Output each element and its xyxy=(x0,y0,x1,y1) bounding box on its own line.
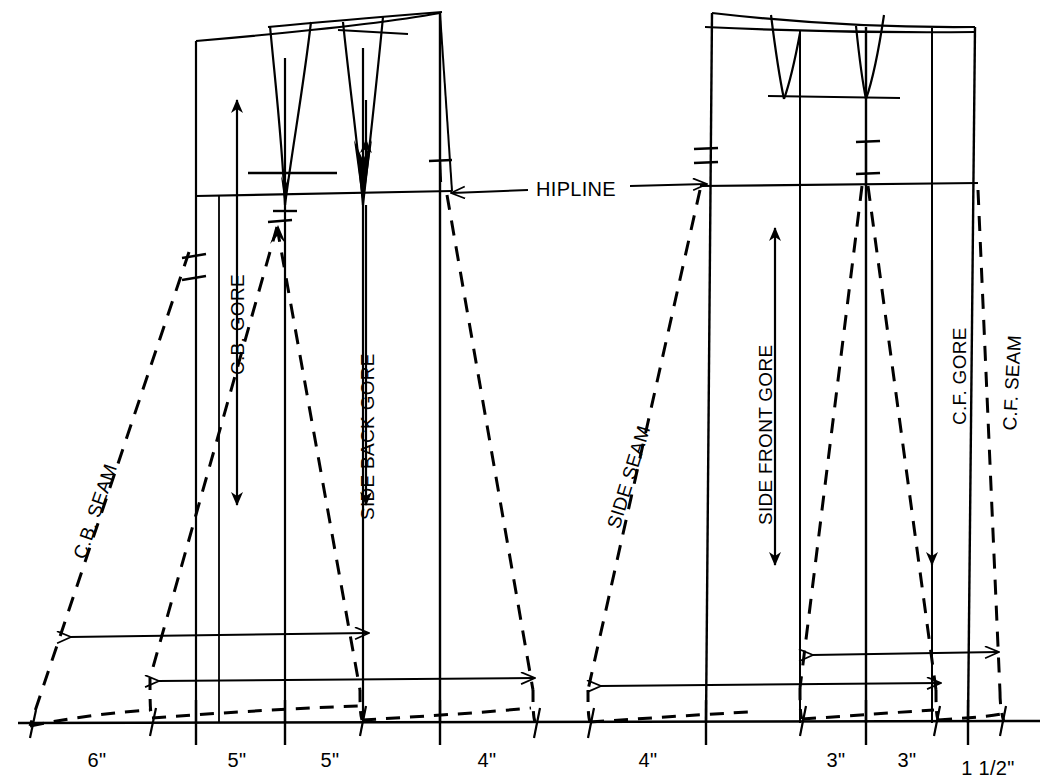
back-outer-edge xyxy=(440,13,452,191)
back-hipline xyxy=(196,191,452,196)
hem-measure-3: 4" xyxy=(478,750,497,770)
back-hem-curve-6 xyxy=(533,690,535,722)
front-dart-1-right xyxy=(784,33,800,99)
back-hem-curve-5 xyxy=(362,708,531,720)
back-waist-line xyxy=(196,13,440,41)
hipline-leader-left xyxy=(452,190,528,193)
front-hem-curve-4 xyxy=(802,710,934,719)
back-hem-curve-3 xyxy=(152,706,360,718)
front-dart-1-left xyxy=(771,15,784,99)
cf-seam-dashed xyxy=(978,190,1000,692)
front-hipline xyxy=(700,183,978,186)
hem-baseline xyxy=(18,721,1040,723)
front-notch-side-a xyxy=(694,148,718,149)
hem-measure-4: 4" xyxy=(639,750,658,770)
cb-gore-right-dashed xyxy=(277,227,360,690)
back-notch-cb-b xyxy=(182,276,206,280)
hem-measure-0: 6" xyxy=(88,750,107,770)
front-notch-center-b xyxy=(856,173,880,174)
front-measure-upper xyxy=(812,652,998,655)
hem-measure-1: 5" xyxy=(228,750,247,770)
cb-gore-apex-arrow xyxy=(270,225,286,244)
front-hem-curve-6 xyxy=(938,714,1002,720)
hem-measure-7: 1 1/2" xyxy=(961,758,1014,778)
cb-gore-left-dashed xyxy=(150,227,277,678)
front-waist-line xyxy=(712,13,975,27)
front-notch-side-b xyxy=(694,162,718,163)
hem-measure-5: 3" xyxy=(827,750,846,770)
back-hem-curve-4 xyxy=(360,690,362,720)
cf-gore-label: C.F. GORE xyxy=(950,327,969,425)
side-back-gore-label: SIDE BACK GORE xyxy=(358,353,377,520)
front-dart-2-left xyxy=(856,26,866,99)
back-notch-side-b xyxy=(440,160,441,182)
back-dart-1-right xyxy=(285,22,311,205)
side-front-gore-label: SIDE FRONT GORE xyxy=(756,345,775,525)
side-front-gore-left-dashed xyxy=(800,186,862,688)
front-hem-curve-1 xyxy=(588,690,590,722)
back-hem-curve-2 xyxy=(150,678,152,718)
cb-gore-apex-tick xyxy=(268,220,292,222)
side-back-gore-right-dashed xyxy=(447,195,533,690)
back-measure-lower xyxy=(158,678,534,681)
side-front-gore-right-dashed xyxy=(868,186,936,690)
back-waist-arc2 xyxy=(338,30,408,34)
hem-measure-2: 5" xyxy=(321,750,340,770)
hipline-label: HIPLINE xyxy=(536,179,616,199)
hem-measure-6: 3" xyxy=(898,750,917,770)
cb-gore-label: C.B. GORE xyxy=(228,274,247,375)
front-dart-2-right xyxy=(866,15,884,99)
front-side-vertical xyxy=(706,13,712,723)
cf-seam-label: C.F. SEAM xyxy=(1000,335,1024,431)
front-waist-arc2 xyxy=(768,96,900,98)
front-notch-center-a xyxy=(856,141,880,142)
back-dart-1-left xyxy=(270,26,285,205)
back-notch-cb-a xyxy=(182,254,206,258)
hipline-leader-right xyxy=(630,184,706,186)
front-measure-lower xyxy=(600,683,940,686)
ink-layer xyxy=(18,12,1040,745)
